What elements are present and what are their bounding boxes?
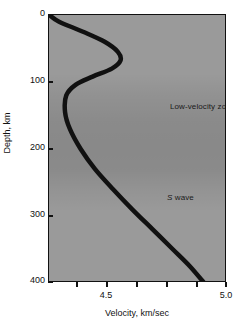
x-tick-mark-4p375 xyxy=(76,282,78,287)
x-tick-mark-4p75 xyxy=(166,282,168,287)
y-tick-mark-400 xyxy=(48,281,53,283)
y-tick-label-300: 300 xyxy=(3,209,45,219)
x-tick-mark-4p875 xyxy=(196,282,198,287)
y-axis-title: Depth, km xyxy=(2,98,12,168)
y-tick-mark-300 xyxy=(48,215,53,217)
x-tick-label-4p5: 4.5 xyxy=(86,290,126,300)
s-wave-label: S wave xyxy=(167,193,194,202)
s-wave-label-rest: wave xyxy=(172,193,193,202)
x-tick-mark-4p625 xyxy=(136,282,138,287)
y-tick-label-100: 100 xyxy=(3,75,45,85)
seismic-velocity-depth-chart: Low-velocity zone S wave 0 100 200 300 4… xyxy=(0,0,243,325)
x-tick-mark-4p5 xyxy=(106,282,108,287)
plot-area: Low-velocity zone S wave xyxy=(48,14,226,282)
y-tick-mark-100 xyxy=(48,81,53,83)
y-tick-mark-200 xyxy=(48,148,53,150)
low-velocity-zone-label: Low-velocity zone xyxy=(170,102,226,111)
x-tick-label-5p0: 5.0 xyxy=(206,290,243,300)
s-wave-curve-path xyxy=(49,15,204,282)
y-tick-label-0: 0 xyxy=(3,8,45,18)
x-tick-mark-5p0 xyxy=(225,282,227,287)
y-tick-label-400: 400 xyxy=(3,275,45,285)
y-tick-mark-0 xyxy=(48,14,53,16)
s-wave-velocity-curve xyxy=(49,15,226,282)
x-axis-title: Velocity, km/sec xyxy=(43,308,231,318)
